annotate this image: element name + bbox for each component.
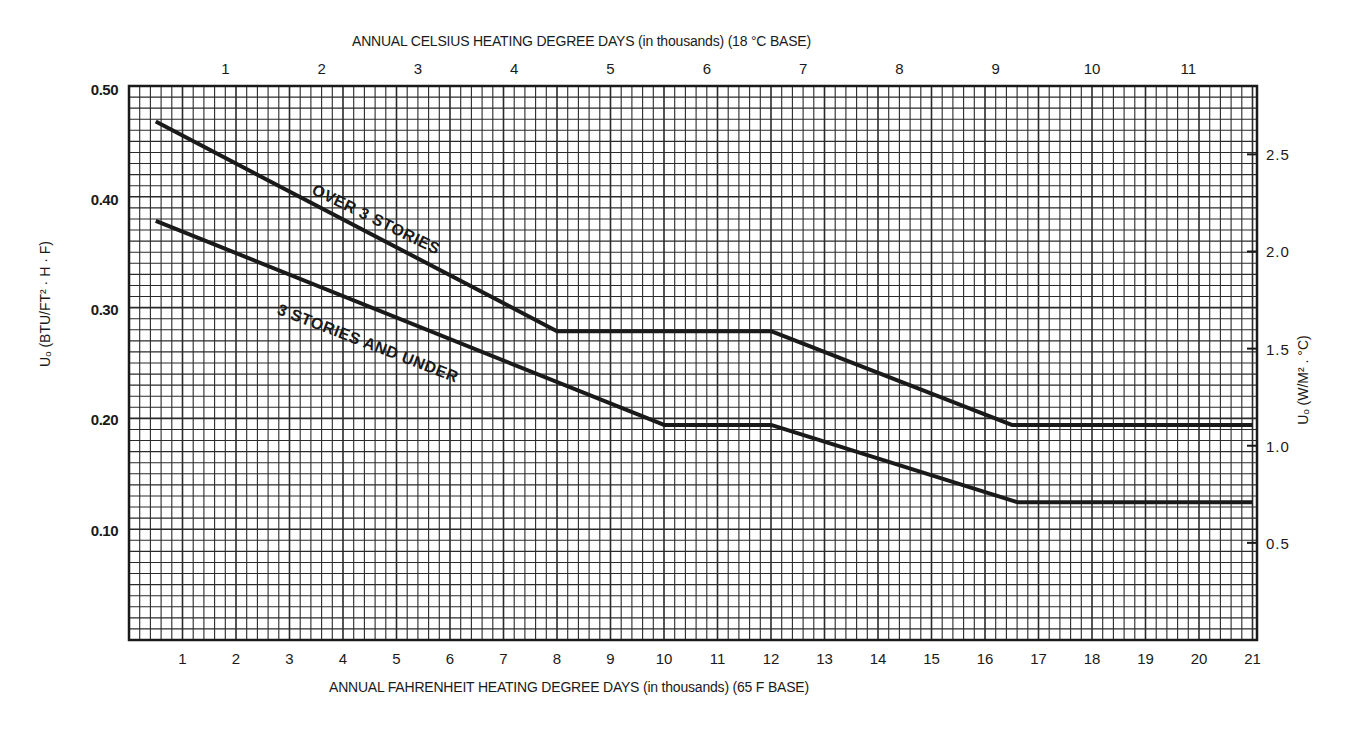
top-tick-label: 11 <box>1181 60 1197 77</box>
x-tick-label: 13 <box>816 650 833 667</box>
x-tick-label: 1 <box>178 650 186 667</box>
x-tick-label: 11 <box>710 650 726 667</box>
top-tick-label: 5 <box>606 60 614 77</box>
top-tick-label: 1 <box>221 60 229 77</box>
top-tick-label: 9 <box>992 60 1000 77</box>
right-tick-label: 1.0 <box>1266 437 1290 454</box>
y-tick-label: 0.40 <box>58 190 118 207</box>
series-line-0 <box>156 122 1253 425</box>
x-tick-label: 3 <box>285 650 293 667</box>
right-tick-label: 2.5 <box>1266 146 1290 163</box>
y-tick-label: 0.10 <box>58 521 118 538</box>
x-tick-label: 18 <box>1084 650 1101 667</box>
x-tick-label: 14 <box>870 650 887 667</box>
x-tick-label: 5 <box>392 650 400 667</box>
x-axis-title: ANNUAL FAHRENHEIT HEATING DEGREE DAYS (i… <box>329 679 809 695</box>
x-tick-label: 10 <box>656 650 673 667</box>
x-tick-label: 6 <box>446 650 454 667</box>
x-tick-label: 8 <box>553 650 561 667</box>
x-tick-label: 16 <box>977 650 994 667</box>
top-tick-label: 8 <box>895 60 903 77</box>
right-axis-title: Uₒ (W/M² . °C) <box>1295 310 1311 450</box>
top-tick-label: 7 <box>799 60 807 77</box>
grid <box>129 86 1257 640</box>
x-tick-label: 17 <box>1030 650 1047 667</box>
x-tick-label: 12 <box>763 650 780 667</box>
y-tick-label: 0.50 <box>58 80 118 97</box>
top-axis-title: ANNUAL CELSIUS HEATING DEGREE DAYS (in t… <box>352 33 811 49</box>
chart-canvas <box>0 0 1351 732</box>
y-tick-label: 0.30 <box>58 301 118 318</box>
top-tick-label: 4 <box>510 60 518 77</box>
x-tick-label: 4 <box>339 650 347 667</box>
x-tick-label: 21 <box>1244 650 1261 667</box>
x-tick-label: 20 <box>1191 650 1208 667</box>
x-tick-label: 19 <box>1137 650 1154 667</box>
right-tick-label: 2.0 <box>1266 243 1290 260</box>
y-axis-title: Uₒ (BTU/FT² · H · F) <box>37 204 53 404</box>
right-tick-label: 0.5 <box>1266 534 1290 551</box>
top-tick-label: 2 <box>317 60 325 77</box>
right-tick-label: 1.5 <box>1266 340 1290 357</box>
top-tick-label: 3 <box>414 60 422 77</box>
x-tick-label: 9 <box>606 650 614 667</box>
y-tick-label: 0.20 <box>58 411 118 428</box>
top-tick-label: 6 <box>703 60 711 77</box>
x-tick-label: 7 <box>499 650 507 667</box>
top-tick-label: 10 <box>1084 60 1101 77</box>
x-tick-label: 2 <box>232 650 240 667</box>
x-tick-label: 15 <box>923 650 940 667</box>
